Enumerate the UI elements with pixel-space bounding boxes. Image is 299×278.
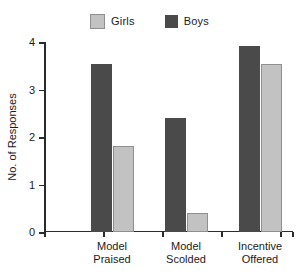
y-tick-4 (39, 42, 44, 44)
bar-girls-0 (113, 146, 134, 232)
x-tick-5 (292, 232, 294, 237)
x-tick-1 (103, 232, 105, 237)
bar-boys-1 (165, 118, 186, 232)
legend-entry-girls: Girls (90, 14, 135, 29)
bar-girls-1 (187, 213, 208, 232)
legend-label-girls: Girls (111, 16, 135, 27)
chart-legend: Girls Boys (0, 14, 299, 29)
bar-chart: Girls Boys 01234 Model PraisedModel Scol… (0, 0, 299, 278)
bar-girls-2 (261, 64, 282, 232)
y-tick-2 (39, 137, 44, 139)
y-tick-label-4: 4 (29, 37, 35, 48)
y-tick-label-2: 2 (29, 132, 35, 143)
bar-boys-2 (239, 46, 260, 232)
y-tick-label-1: 1 (29, 180, 35, 191)
x-tick-2 (162, 232, 164, 237)
y-tick-3 (39, 90, 44, 92)
y-tick-1 (39, 185, 44, 187)
category-label-0: Model Praised (93, 240, 130, 266)
x-tick-3 (221, 232, 223, 237)
x-tick-0 (44, 232, 46, 237)
legend-swatch-boys-icon (165, 15, 178, 28)
y-axis-line (44, 42, 46, 232)
legend-label-boys: Boys (184, 16, 209, 27)
category-label-2: Incentive Offered (238, 240, 282, 266)
x-tick-4 (280, 232, 282, 237)
legend-entry-boys: Boys (165, 15, 209, 28)
y-tick-label-3: 3 (29, 85, 35, 96)
y-tick-label-0: 0 (29, 227, 35, 238)
category-label-1: Model Scolded (166, 240, 206, 266)
plot-area: 01234 Model PraisedModel ScoldedIncentiv… (44, 42, 293, 232)
legend-swatch-girls-icon (90, 14, 105, 29)
y-axis-title: No. of Responses (7, 93, 18, 180)
bar-boys-0 (91, 64, 112, 232)
